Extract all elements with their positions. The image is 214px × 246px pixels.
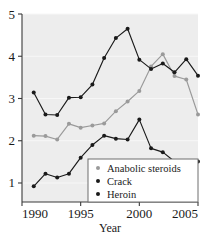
data-point-marker	[102, 134, 106, 138]
data-point-marker	[196, 74, 200, 78]
data-point-marker	[173, 70, 177, 74]
data-point-marker	[173, 74, 177, 78]
data-point-marker	[161, 150, 165, 154]
data-point-marker	[149, 67, 153, 71]
y-axis-tick-label: 2	[9, 133, 16, 148]
legend-marker	[96, 192, 100, 196]
x-axis-tick-labels: 1990199520002005	[22, 206, 198, 221]
data-point-marker	[137, 58, 141, 62]
y-axis-tick-label: 5	[9, 7, 16, 22]
data-point-marker	[43, 113, 47, 117]
data-point-marker	[149, 146, 153, 150]
line-chart: 12345 1990199520002005 Year Anabolic ste…	[0, 0, 214, 246]
data-point-marker	[90, 143, 94, 147]
data-point-marker	[184, 57, 188, 61]
data-point-marker	[114, 109, 118, 113]
data-point-marker	[102, 121, 106, 125]
data-point-marker	[55, 176, 59, 180]
data-point-marker	[90, 83, 94, 87]
y-axis-ticks	[18, 14, 22, 183]
data-point-marker	[161, 52, 165, 56]
data-point-marker	[32, 184, 36, 188]
data-point-marker	[90, 124, 94, 128]
x-axis-tick-label: 1990	[22, 206, 48, 221]
data-point-marker	[102, 56, 106, 60]
data-point-marker	[43, 134, 47, 138]
data-point-marker	[137, 89, 141, 93]
data-point-marker	[114, 36, 118, 40]
data-point-marker	[32, 91, 36, 95]
data-point-marker	[137, 118, 141, 122]
x-axis-title: Year	[99, 221, 121, 235]
data-point-marker	[67, 172, 71, 176]
data-point-marker	[32, 134, 36, 138]
data-point-marker	[184, 77, 188, 81]
data-point-marker	[196, 113, 200, 117]
legend-label: Anabolic steroids	[107, 163, 181, 174]
y-axis-tick-label: 3	[9, 91, 16, 106]
y-axis-tick-label: 1	[9, 175, 16, 190]
x-axis-tick-label: 1995	[68, 206, 94, 221]
legend-marker	[96, 179, 100, 183]
data-point-marker	[79, 156, 83, 160]
y-axis-tick-labels: 12345	[9, 7, 16, 191]
data-point-marker	[126, 99, 130, 103]
data-point-marker	[67, 96, 71, 100]
data-point-marker	[79, 126, 83, 130]
data-point-marker	[79, 95, 83, 99]
x-axis-tick-label: 2005	[172, 206, 198, 221]
data-point-marker	[126, 137, 130, 141]
data-point-marker	[67, 122, 71, 126]
data-point-marker	[55, 137, 59, 141]
y-axis-tick-label: 4	[9, 49, 16, 64]
data-point-marker	[161, 61, 165, 65]
legend-label: Crack	[107, 176, 133, 187]
legend-marker	[96, 166, 100, 170]
legend-label: Heroin	[107, 189, 137, 200]
data-point-marker	[126, 27, 130, 31]
data-point-marker	[55, 113, 59, 117]
chart-legend: Anabolic steroidsCrackHeroin	[88, 159, 198, 202]
x-axis-tick-label: 2000	[126, 206, 152, 221]
data-point-marker	[114, 137, 118, 141]
data-point-marker	[43, 172, 47, 176]
chart-figure: 12345 1990199520002005 Year Anabolic ste…	[0, 0, 214, 246]
